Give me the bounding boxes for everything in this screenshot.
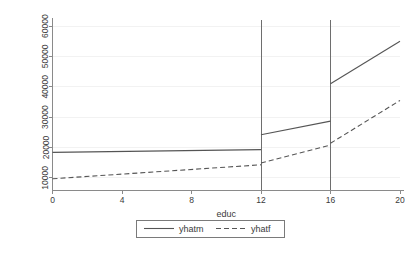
- x-tick-label-12: 12: [256, 195, 266, 205]
- y-tick-label-50000: 50000: [41, 44, 51, 68]
- legend-label-yhatm: yhatm: [179, 224, 204, 234]
- legend-label-yhatf: yhatf: [251, 224, 271, 234]
- y-tick-label-20000: 20000: [41, 135, 51, 159]
- x-axis-title-text: educ: [216, 209, 236, 219]
- x-tick-label-4: 4: [120, 195, 125, 205]
- x-tick-label-20: 20: [395, 195, 405, 205]
- line-chart: 100002000030000400005000060000 048121620…: [0, 0, 420, 255]
- x-tick-label-16: 16: [326, 195, 336, 205]
- x-tick-label-8: 8: [189, 195, 194, 205]
- x-axis-title: educ: [216, 209, 236, 219]
- y-tick-label-30000: 30000: [41, 105, 51, 129]
- x-tick-label-0: 0: [50, 195, 55, 205]
- chart-figure: 100002000030000400005000060000 048121620…: [0, 0, 420, 255]
- chart-background: [0, 0, 420, 255]
- chart-legend: yhatmyhatf: [136, 220, 284, 237]
- y-tick-label-10000: 10000: [41, 166, 51, 190]
- y-tick-label-40000: 40000: [41, 75, 51, 99]
- y-tick-label-60000: 60000: [41, 14, 51, 38]
